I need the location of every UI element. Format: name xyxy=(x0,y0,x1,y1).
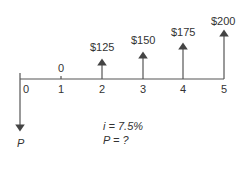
period-label-0: 0 xyxy=(23,84,29,95)
cash-flow-label-5: $200 xyxy=(211,16,235,27)
period-label-3: 3 xyxy=(140,84,146,95)
present-value-label: P xyxy=(17,138,24,149)
cash-flow-diagram xyxy=(0,0,242,196)
cash-flow-label-4: $175 xyxy=(171,27,195,38)
interest-rate-text: i = 7.5% xyxy=(103,121,143,132)
cash-flow-label-2: $125 xyxy=(90,42,114,53)
period-label-2: 2 xyxy=(99,84,105,95)
cash-flow-label-3: $150 xyxy=(131,35,155,46)
cash-flow-label-1: 0 xyxy=(58,63,64,74)
period-label-4: 4 xyxy=(180,84,186,95)
unknown-pv-text: P = ? xyxy=(103,135,129,146)
period-label-5: 5 xyxy=(221,84,227,95)
period-label-1: 1 xyxy=(58,84,64,95)
